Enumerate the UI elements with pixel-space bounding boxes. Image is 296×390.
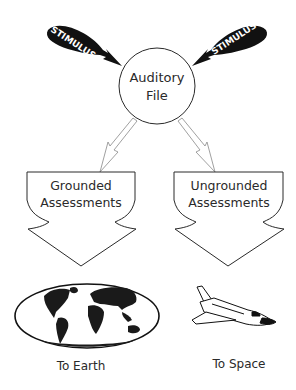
ungrounded-line1: Ungrounded [191,178,268,193]
to-space-label: To Space [211,357,265,371]
ungrounded-assessments-arrow: Ungrounded Assessments [174,172,284,266]
stimulus-left-arrow: STIMULUS [47,24,122,66]
grounded-line2: Assessments [40,195,122,210]
stimulus-right-arrow: STIMULUS [192,20,267,66]
to-earth-label: To Earth [56,359,106,373]
grounded-assessments-arrow: Grounded Assessments [27,172,136,266]
auditory-file-line2: File [146,88,168,103]
space-shuttle-icon [192,286,276,325]
auditory-file-node: Auditory File [119,48,195,124]
ungrounded-line2: Assessments [188,195,270,210]
grounded-line1: Grounded [50,178,112,193]
world-map-icon [15,284,159,348]
auditory-file-line1: Auditory [129,70,184,85]
thin-arrow-right [178,118,215,172]
diagram-canvas: STIMULUS STIMULUS Auditory File Grounded… [0,0,296,390]
thin-arrow-left [100,118,137,172]
